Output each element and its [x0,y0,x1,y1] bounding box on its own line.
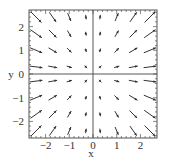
y-tick-label: 0 [19,68,25,80]
x-axis-label: x [88,147,94,159]
x-tick-label: −2 [40,139,52,151]
x-tick-label: 2 [138,139,144,151]
vector-field-plot: −2−1012210−1−2 x y [0,0,169,168]
x-tick-label: 1 [114,139,120,151]
x-tick-label: −1 [63,139,75,151]
zero-axes [29,10,157,138]
tick-labels: −2−1012210−1−2 [12,21,143,151]
y-axis-label: y [8,68,14,80]
y-tick-label: 2 [19,21,25,33]
y-tick-label: −2 [12,115,24,127]
y-tick-label: 1 [19,44,25,56]
y-tick-label: −1 [12,92,24,104]
